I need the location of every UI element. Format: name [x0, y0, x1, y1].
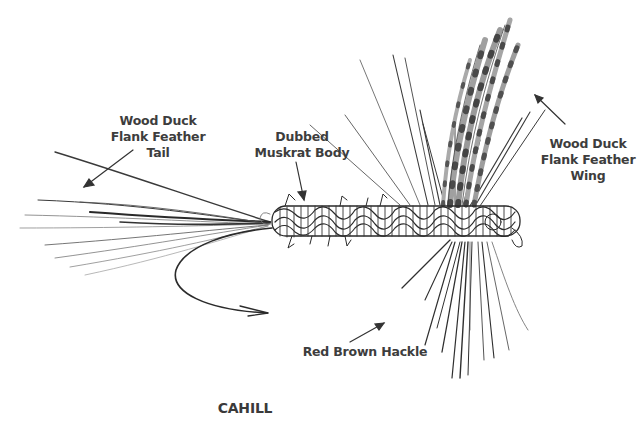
wing-label-line-3: Wing — [538, 168, 638, 184]
hackle-callout-label: Red Brown Hackle — [300, 344, 430, 360]
wing-label-line-1: Wood Duck — [538, 136, 638, 152]
body-callout-label: Dubbed Muskrat Body — [252, 129, 352, 161]
tail-label-line-1: Wood Duck — [104, 113, 212, 129]
fly-name-title: CAHILL — [210, 400, 280, 416]
hackle-label-line-1: Red Brown Hackle — [300, 344, 430, 360]
body-label-line-2: Muskrat Body — [252, 145, 352, 161]
wing-callout-label: Wood Duck Flank Feather Wing — [538, 136, 638, 184]
tail-callout-label: Wood Duck Flank Feather Tail — [104, 113, 212, 161]
body-label-line-1: Dubbed — [252, 129, 352, 145]
tail-label-line-3: Tail — [104, 145, 212, 161]
wing-label-line-2: Flank Feather — [538, 152, 638, 168]
wing-feathers — [443, 20, 518, 205]
hook — [175, 228, 272, 316]
tail-fibers — [20, 152, 270, 275]
title-text: CAHILL — [210, 400, 280, 416]
tail-label-line-2: Flank Feather — [104, 129, 212, 145]
